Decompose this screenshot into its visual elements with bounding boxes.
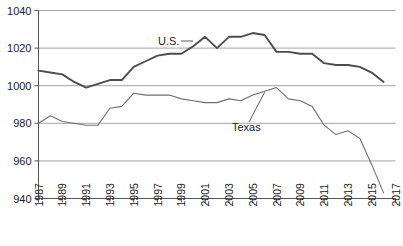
x-tick-label: 2011 xyxy=(318,184,330,207)
x-tick-label: 1993 xyxy=(104,183,116,207)
x-tick-label: 1997 xyxy=(152,183,164,207)
y-tick-label: 1040 xyxy=(7,5,31,17)
series-label-texas: Texas xyxy=(232,121,261,133)
x-tick-label: 1989 xyxy=(56,183,68,207)
x-tick-label: 1987 xyxy=(33,183,45,207)
y-tick-label: 1020 xyxy=(7,42,31,54)
y-tick-label: 960 xyxy=(13,155,31,167)
x-tick-label: 2017 xyxy=(390,183,402,207)
x-tick-label: 1999 xyxy=(175,183,187,207)
chart-container: 940960980100010201040 198719891991199319… xyxy=(0,0,403,246)
x-tick-label: 2005 xyxy=(247,183,259,207)
y-tick-label: 940 xyxy=(13,193,31,205)
x-tick-label: 2009 xyxy=(294,183,306,207)
x-tick-label: 1995 xyxy=(128,183,140,207)
x-tick-label: 2001 xyxy=(199,183,211,207)
x-tick-label: 2007 xyxy=(271,183,283,207)
y-tick-label: 1000 xyxy=(7,80,31,92)
x-tick-label: 2013 xyxy=(342,183,354,207)
line-chart: 940960980100010201040 198719891991199319… xyxy=(0,0,403,246)
series-label-us: U.S. xyxy=(158,35,179,47)
x-tick-label: 2015 xyxy=(366,183,378,207)
x-tick-label: 1991 xyxy=(80,183,92,207)
x-tick-label: 2003 xyxy=(223,183,235,207)
y-tick-label: 980 xyxy=(13,117,31,129)
